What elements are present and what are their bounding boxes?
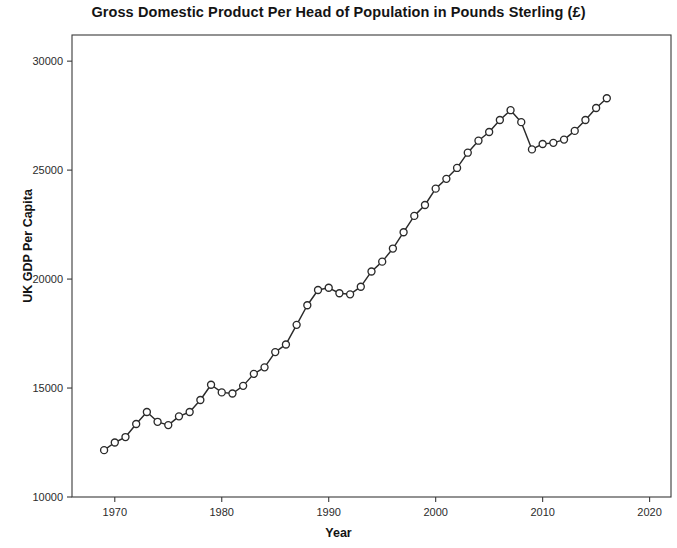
- y-tick-label: 15000: [32, 382, 63, 394]
- data-point-marker: [550, 139, 557, 146]
- data-point-marker: [304, 302, 311, 309]
- data-point-marker: [432, 185, 439, 192]
- data-point-marker: [561, 136, 568, 143]
- x-tick-label: 2000: [423, 506, 447, 518]
- data-point-marker: [272, 349, 279, 356]
- y-tick-label: 10000: [32, 491, 63, 503]
- data-point-marker: [261, 364, 268, 371]
- data-point-marker: [379, 258, 386, 265]
- data-point-marker: [507, 107, 514, 114]
- x-tick-label: 1980: [210, 506, 234, 518]
- data-point-marker: [229, 390, 236, 397]
- data-point-marker: [571, 127, 578, 134]
- data-point-marker: [282, 341, 289, 348]
- data-point-marker: [111, 439, 118, 446]
- x-tick-label: 2010: [530, 506, 554, 518]
- data-point-marker: [122, 434, 129, 441]
- data-point-marker: [443, 175, 450, 182]
- data-point-marker: [582, 116, 589, 123]
- plot-frame: [72, 35, 671, 497]
- data-point-marker: [186, 409, 193, 416]
- x-tick-label: 1970: [103, 506, 127, 518]
- data-point-marker: [539, 140, 546, 147]
- y-tick-label: 25000: [32, 164, 63, 176]
- data-point-marker: [603, 95, 610, 102]
- data-point-marker: [411, 212, 418, 219]
- plot-border: [72, 35, 671, 497]
- data-series-layer: [101, 95, 611, 454]
- data-point-marker: [593, 105, 600, 112]
- data-point-marker: [496, 116, 503, 123]
- data-point-marker: [400, 229, 407, 236]
- x-axis-ticks: 197019801990200020102020: [103, 497, 662, 518]
- data-point-marker: [293, 321, 300, 328]
- data-point-marker: [475, 137, 482, 144]
- data-point-marker: [315, 286, 322, 293]
- data-point-marker: [208, 381, 215, 388]
- data-point-marker: [486, 128, 493, 135]
- data-point-marker: [357, 283, 364, 290]
- data-point-marker: [143, 409, 150, 416]
- data-point-marker: [389, 245, 396, 252]
- data-point-marker: [421, 201, 428, 208]
- data-point-marker: [101, 447, 108, 454]
- y-axis-ticks: 1000015000200002500030000: [32, 55, 72, 503]
- data-point-marker: [250, 370, 257, 377]
- data-point-marker: [336, 290, 343, 297]
- data-point-marker: [218, 389, 225, 396]
- data-point-marker: [325, 284, 332, 291]
- data-point-marker: [464, 149, 471, 156]
- data-point-marker: [347, 291, 354, 298]
- chart-figure: Gross Domestic Product Per Head of Popul…: [0, 0, 677, 548]
- y-tick-label: 20000: [32, 273, 63, 285]
- y-tick-label: 30000: [32, 55, 63, 67]
- data-point-marker: [165, 422, 172, 429]
- data-point-marker: [154, 418, 161, 425]
- data-point-marker: [368, 268, 375, 275]
- data-point-marker: [175, 413, 182, 420]
- data-point-marker: [454, 164, 461, 171]
- data-point-marker: [133, 421, 140, 428]
- x-tick-label: 2020: [637, 506, 661, 518]
- x-tick-label: 1990: [316, 506, 340, 518]
- data-point-marker: [528, 146, 535, 153]
- data-point-marker: [197, 397, 204, 404]
- plot-canvas: 1000015000200002500030000 19701980199020…: [0, 0, 677, 548]
- data-point-marker: [518, 119, 525, 126]
- data-point-marker: [240, 382, 247, 389]
